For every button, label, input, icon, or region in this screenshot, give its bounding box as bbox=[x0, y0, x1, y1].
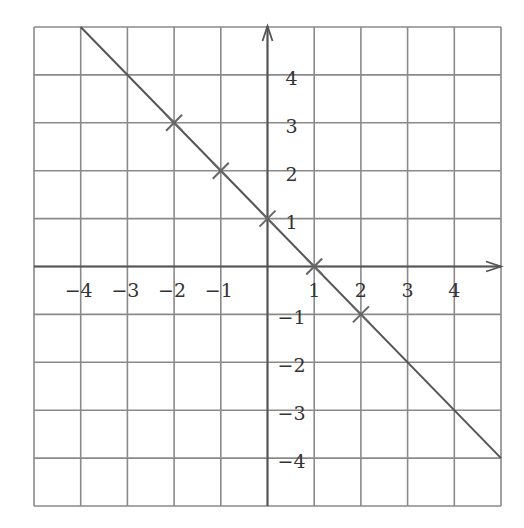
y-tick-label: −4 bbox=[277, 450, 305, 472]
y-tick-label: 1 bbox=[285, 211, 297, 233]
coordinate-graph: −4−3−2−112344321−1−2−3−4 bbox=[0, 0, 524, 528]
x-tick-label: 4 bbox=[448, 279, 460, 301]
plotted-line bbox=[81, 27, 501, 458]
x-tick-label: −4 bbox=[65, 279, 93, 301]
y-tick-label: −1 bbox=[277, 306, 305, 328]
x-tick-label: −3 bbox=[111, 279, 139, 301]
x-tick-label: −2 bbox=[158, 279, 186, 301]
axes bbox=[34, 26, 501, 506]
x-tick-label: −1 bbox=[205, 279, 233, 301]
y-tick-label: 3 bbox=[285, 115, 297, 137]
y-tick-label: 4 bbox=[285, 67, 297, 89]
y-tick-label: 2 bbox=[285, 163, 297, 185]
line-y-equals-1-minus-x bbox=[81, 27, 501, 458]
x-tick-label: 3 bbox=[402, 279, 414, 301]
y-tick-label: −3 bbox=[277, 402, 305, 424]
y-tick-label: −2 bbox=[277, 354, 305, 376]
x-tick-label: 2 bbox=[355, 279, 367, 301]
tick-labels: −4−3−2−112344321−1−2−3−4 bbox=[65, 67, 461, 472]
x-tick-label: 1 bbox=[308, 279, 320, 301]
